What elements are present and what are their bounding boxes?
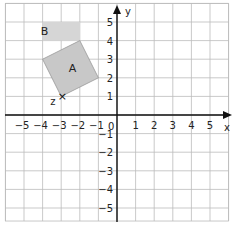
- origin-label: 0: [108, 121, 114, 132]
- x-tick-label: 1: [132, 120, 138, 131]
- y-tick-label: −4: [98, 184, 113, 195]
- y-axis-arrow-icon: [113, 5, 121, 14]
- x-tick-label: −2: [70, 120, 85, 131]
- x-tick-label: −3: [52, 120, 67, 131]
- x-axis-arrow-icon: [223, 111, 232, 119]
- y-tick-label: 1: [107, 91, 113, 102]
- x-tick-label: 5: [207, 120, 213, 131]
- point-z-label: z: [50, 96, 55, 107]
- y-tick-label: −2: [98, 147, 113, 158]
- x-tick-label: 4: [188, 120, 194, 131]
- y-tick-label: −5: [98, 203, 113, 214]
- y-axis-label: y: [125, 6, 131, 17]
- x-tick-label: 2: [151, 120, 157, 131]
- shape-b-label: B: [41, 25, 49, 38]
- y-tick-label: 2: [107, 73, 113, 84]
- point-z-marker-icon: ×: [58, 90, 67, 103]
- x-axis-label: x: [224, 122, 230, 133]
- x-tick-label: −5: [15, 120, 30, 131]
- y-tick-label: −3: [98, 166, 113, 177]
- x-tick-label: 3: [170, 120, 176, 131]
- shape-a-label: A: [69, 62, 77, 75]
- coordinate-grid: x y −5−4−3−2−112345 54321−1−2−3−4−5 0 A …: [0, 0, 237, 227]
- x-tick-label: −4: [33, 120, 48, 131]
- y-tick-label: 5: [107, 17, 113, 28]
- y-tick-label: 4: [107, 36, 113, 47]
- y-tick-label: 3: [107, 54, 113, 65]
